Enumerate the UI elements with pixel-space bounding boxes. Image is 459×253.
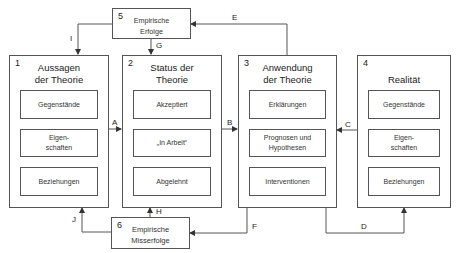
box-title: Empirische Erfolge (113, 15, 190, 37)
item-interventionen: Interventionen (249, 167, 326, 196)
item-gegenstaende: Gegenstände (20, 90, 98, 119)
box-empirische-erfolge: 5 Empirische Erfolge (112, 8, 191, 39)
item-eigenschaften: Eigen- schaften (368, 129, 440, 157)
edge-label-i: I (70, 34, 72, 43)
box-number: 4 (363, 58, 368, 68)
edge-label-g: G (156, 41, 162, 50)
item-beziehungen: Beziehungen (20, 167, 98, 196)
item-gegenstaende: Gegenstände (368, 90, 440, 119)
box-aussagen-der-theorie: 1 Aussagen der Theorie Gegenstände Eigen… (9, 55, 109, 208)
box-title: Empirische Misserfolge (112, 224, 189, 246)
box-status-der-theorie: 2 Status der Theorie Akzeptiert „In Arbe… (122, 55, 222, 208)
item-eigenschaften: Eigen- schaften (20, 129, 98, 157)
item-beziehungen: Beziehungen (368, 167, 440, 196)
box-title: Realität (358, 74, 450, 86)
edge-label-j: J (72, 215, 76, 224)
item-abgelehnt: Abgelehnt (133, 167, 211, 196)
edge-label-b: B (227, 118, 232, 127)
edge-label-d: D (361, 222, 367, 231)
item-akzeptiert: Akzeptiert (133, 90, 211, 119)
box-empirische-misserfolge: 6 Empirische Misserfolge (111, 217, 190, 249)
edge-label-c: C (345, 120, 351, 129)
item-in-arbeit: „In Arbeit“ (133, 129, 211, 157)
item-prognosen-und-hypothesen: Prognosen und Hypothesen (249, 129, 326, 157)
item-erklaerungen: Erklärungen (249, 90, 326, 119)
box-title: Aussagen der Theorie (10, 62, 108, 86)
box-title: Status der Theorie (123, 62, 221, 86)
box-title: Anwendung der Theorie (239, 62, 336, 86)
edge-label-a: A (112, 118, 117, 127)
edge-label-f: F (252, 222, 257, 231)
box-anwendung-der-theorie: 3 Anwendung der Theorie Erklärungen Prog… (238, 55, 337, 208)
edge-label-h: H (156, 207, 162, 216)
box-realitaet: 4 Realität Gegenstände Eigen- schaften B… (357, 55, 451, 208)
edge-label-e: E (232, 13, 237, 22)
